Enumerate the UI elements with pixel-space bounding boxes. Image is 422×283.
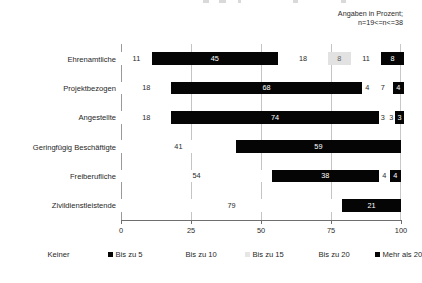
legend-swatch-icon	[375, 252, 380, 257]
bar-segment: 54	[121, 170, 272, 183]
bar-segment-value: 3	[398, 114, 402, 121]
bar-segment: 4	[393, 82, 404, 95]
bar-segment: 18	[121, 111, 171, 124]
x-axis-tick-label: 0	[119, 226, 123, 235]
chart-legend: KeinerBis zu 5Bis zu 10Bis zu 15Bis zu 2…	[0, 250, 409, 270]
bar-segment-value: 3	[389, 114, 393, 121]
bar-segment-value: 59	[314, 143, 322, 150]
bar-segment: 45	[152, 52, 278, 65]
legend-label: Bis zu 5	[116, 250, 143, 259]
bar-segment-value: 4	[382, 172, 386, 179]
x-axis-tick	[401, 220, 402, 224]
legend-item[interactable]: Keiner	[40, 250, 69, 259]
legend-label: Mehr als 20	[383, 250, 422, 259]
legend-label: Bis zu 15	[253, 250, 284, 259]
bar-segment-value: 41	[174, 143, 182, 150]
gridline	[261, 44, 262, 220]
legend-swatch-icon	[40, 252, 45, 257]
bar-segment-value: 8	[391, 55, 395, 62]
category-label: Projektbezogen	[63, 84, 116, 93]
bar-segment: 3	[387, 111, 395, 124]
bar-segment-value: 3	[381, 114, 385, 121]
bar-segment-value: 18	[142, 84, 150, 91]
legend-item[interactable]: Bis zu 10	[178, 250, 217, 259]
category-label: Angestellte	[78, 113, 116, 122]
bar-segment-value: 4	[396, 84, 400, 91]
bar-segment-value: 4	[393, 172, 397, 179]
bar-segment: 11	[351, 52, 382, 65]
x-axis-tick-label: 100	[395, 226, 407, 235]
bar-segment: 4	[362, 82, 373, 95]
x-axis-tick	[331, 220, 332, 224]
legend-swatch-icon	[311, 252, 316, 257]
cut-off-artifact-strip	[0, 0, 409, 5]
bar-segment: 8	[328, 52, 350, 65]
x-axis-tick-label: 50	[257, 226, 265, 235]
bar-segment-value: 54	[193, 172, 201, 179]
plot-area: 0255075100114518811818684741874333415954…	[121, 44, 401, 220]
bar-segment: 18	[121, 82, 171, 95]
bar-segment: 11	[121, 52, 152, 65]
bar-segment: 21	[342, 199, 401, 212]
category-label: Geringfügig Beschäftigte	[33, 142, 116, 151]
bar-segment-value: 38	[321, 172, 329, 179]
bar-segment-value: 8	[337, 55, 341, 62]
bar-segment-value: 79	[228, 202, 236, 209]
legend-swatch-icon	[178, 252, 183, 257]
legend-item[interactable]: Bis zu 15	[245, 250, 284, 259]
legend-swatch-icon	[245, 252, 250, 257]
legend-item[interactable]: Mehr als 20	[375, 250, 422, 259]
legend-swatch-icon	[108, 252, 113, 257]
bar-segment: 4	[390, 170, 401, 183]
bar-segment: 68	[171, 82, 361, 95]
category-label: Ehrenamtliche	[67, 54, 116, 63]
bar-segment: 41	[121, 140, 236, 153]
gridline	[191, 44, 192, 220]
bar-segment-value: 11	[133, 55, 141, 62]
bar-segment: 18	[278, 52, 328, 65]
bar-segment: 4	[379, 170, 390, 183]
category-label: Freiberufliche	[70, 172, 116, 181]
bar-segment: 59	[236, 140, 401, 153]
legend-item[interactable]: Bis zu 5	[108, 250, 143, 259]
bar-segment-value: 4	[365, 84, 369, 91]
bar-segment: 74	[171, 111, 378, 124]
gridline	[331, 44, 332, 220]
bar-segment: 7	[373, 82, 393, 95]
bar-segment: 38	[272, 170, 378, 183]
x-axis-tick	[121, 220, 122, 224]
bar-segment: 3	[379, 111, 387, 124]
bar-segment: 8	[381, 52, 403, 65]
bar-segment-value: 68	[263, 84, 271, 91]
annotation-line-2: n=19<=n<=38	[338, 18, 403, 27]
bar-segment-value: 45	[211, 55, 219, 62]
bar-segment-value: 74	[271, 114, 279, 121]
x-axis-tick-label: 75	[327, 226, 335, 235]
x-axis-tick	[261, 220, 262, 224]
chart-annotation: Angaben in Prozent; n=19<=n<=38	[338, 9, 403, 28]
bar-segment: 79	[121, 199, 342, 212]
x-axis-tick-label: 25	[187, 226, 195, 235]
annotation-line-1: Angaben in Prozent;	[338, 9, 403, 18]
bar-segment-value: 11	[362, 55, 370, 62]
x-axis-tick	[191, 220, 192, 224]
legend-label: Keiner	[48, 250, 70, 259]
bar-segment-value: 7	[381, 84, 385, 91]
legend-label: Bis zu 20	[319, 250, 350, 259]
bar-segment-value: 18	[299, 55, 307, 62]
bar-segment: 3	[395, 111, 403, 124]
legend-item[interactable]: Bis zu 20	[311, 250, 350, 259]
bar-segment-value: 18	[142, 114, 150, 121]
legend-label: Bis zu 10	[186, 250, 217, 259]
category-label: Zivildienstleistende	[52, 201, 116, 210]
bar-segment-value: 21	[368, 202, 376, 209]
